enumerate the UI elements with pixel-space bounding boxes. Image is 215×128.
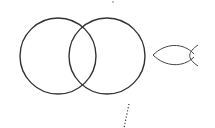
top-dot — [112, 1, 113, 2]
fish-icon — [153, 45, 198, 66]
right-circle — [69, 18, 145, 94]
left-circle — [20, 18, 96, 94]
vesica-piscis-diagram — [0, 0, 215, 128]
dotted-line — [124, 104, 129, 128]
